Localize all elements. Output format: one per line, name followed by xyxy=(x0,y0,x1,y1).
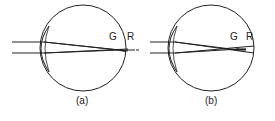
lens-b xyxy=(173,26,177,72)
label-g-a: G xyxy=(109,32,117,42)
label-r-b: R xyxy=(246,32,253,42)
eye-a xyxy=(12,5,139,91)
rays-b xyxy=(150,42,254,53)
eye-b xyxy=(150,5,254,91)
lens-a xyxy=(45,26,49,72)
label-r-a: R xyxy=(127,32,134,42)
caption-b: (b) xyxy=(205,96,217,106)
label-g-b: G xyxy=(230,32,238,42)
eyeball-a xyxy=(40,5,126,91)
rays-a xyxy=(12,42,139,53)
caption-a: (a) xyxy=(76,96,88,106)
diagram-canvas xyxy=(0,0,275,121)
eyeball-b xyxy=(168,5,254,91)
